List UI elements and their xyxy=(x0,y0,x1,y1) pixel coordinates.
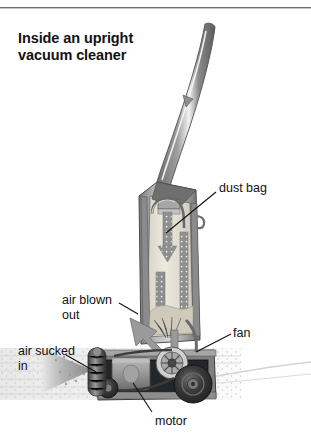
page-title: Inside an uprightvacuum cleaner xyxy=(18,30,133,64)
rear-wheel-part xyxy=(174,365,212,403)
title-line-2: vacuum cleaner xyxy=(18,47,126,63)
title-line-1: Inside an upright xyxy=(18,30,133,46)
leader-air-blown xyxy=(119,303,138,314)
vacuum-body-housing xyxy=(139,182,204,344)
airflow-arrow-bag-right xyxy=(180,232,188,312)
label-air-sucked-line-1: air sucked xyxy=(18,344,75,358)
figure-canvas: Inside an uprightvacuum cleaner dust bag… xyxy=(0,0,311,445)
brush-roller-part xyxy=(88,348,106,397)
label-air-blown-out: air blownout xyxy=(62,293,112,323)
label-air-sucked-line-2: in xyxy=(18,359,28,373)
vacuum-cleaner-cutaway-illustration xyxy=(0,0,311,445)
vacuum-handle xyxy=(157,23,215,186)
label-dust-bag: dust bag xyxy=(219,181,267,196)
label-air-blown-line-1: air blown xyxy=(62,293,112,307)
label-fan: fan xyxy=(233,326,250,341)
label-air-blown-line-2: out xyxy=(62,308,79,322)
label-air-sucked-in: air suckedin xyxy=(18,344,75,374)
top-divider-rule xyxy=(0,7,311,8)
label-motor: motor xyxy=(155,414,187,429)
